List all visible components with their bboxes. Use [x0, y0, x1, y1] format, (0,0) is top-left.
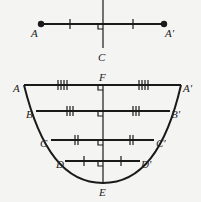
label-D: D: [55, 158, 64, 170]
bottom-figure: A A′ F B B′ C C′ D D′ E: [12, 71, 193, 198]
label-A: A: [30, 27, 38, 39]
label-D-prime: D′: [140, 158, 152, 170]
label-A-prime: A′: [164, 27, 175, 39]
label-C-prime: C′: [156, 137, 166, 149]
reflection-diagram: A A′ C: [0, 0, 201, 202]
label-B: B: [26, 108, 33, 120]
label-B-prime: B′: [171, 108, 181, 120]
label-A: A: [12, 82, 20, 94]
label-F: F: [98, 71, 106, 83]
point-A: [38, 21, 44, 27]
label-C: C: [98, 51, 106, 63]
label-E: E: [98, 186, 106, 198]
label-A-prime: A′: [182, 82, 193, 94]
label-C: C: [40, 137, 48, 149]
top-figure: A A′ C: [30, 0, 175, 63]
